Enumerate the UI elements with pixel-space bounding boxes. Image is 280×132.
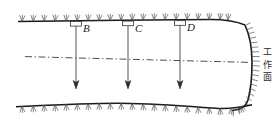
borehole-collar-c [123, 21, 134, 26]
borehole-c [123, 21, 134, 89]
borehole-d [175, 21, 186, 89]
borehole-label-d: D [186, 21, 195, 33]
borehole-b [71, 22, 82, 90]
centerline-dash-dot [25, 57, 250, 63]
borehole-label-c: C [135, 22, 143, 34]
borehole-collar-d [175, 21, 186, 26]
diagram-canvas: B C D [0, 0, 280, 132]
working-face-char-2: 作 [261, 59, 274, 72]
working-face-boundary-group [232, 23, 260, 117]
working-face-char-1: 工 [261, 46, 274, 59]
mining-working-face-diagram: B C D 工 作 面 [0, 0, 280, 132]
borehole-label-b: B [83, 22, 90, 34]
borehole-collar-b [71, 22, 82, 27]
working-face-char-3: 面 [261, 71, 274, 84]
working-face-boundary-line [232, 25, 252, 111]
bottom-boundary-group [16, 103, 252, 115]
working-face-label: 工 作 面 [261, 46, 274, 84]
